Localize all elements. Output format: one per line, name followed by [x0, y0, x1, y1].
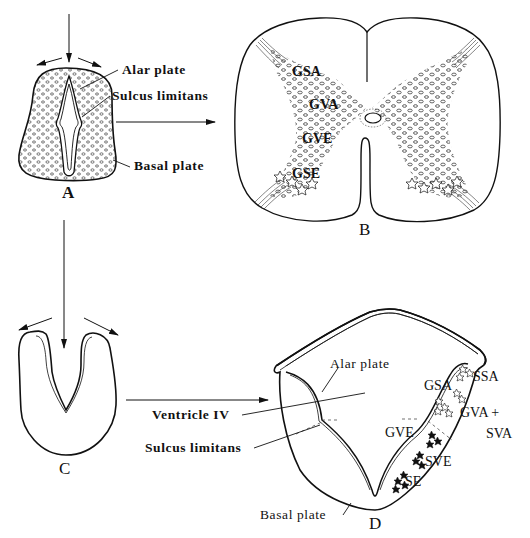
- label-d-ssa: SSA: [473, 369, 499, 385]
- label-d-se: SE: [405, 474, 421, 490]
- label-a-sulcus-limitans: Sulcus limitans: [112, 88, 208, 104]
- panel-d-drawing: [242, 309, 486, 515]
- label-d-gva-plus: GVA +: [460, 405, 499, 421]
- label-d-gve: GVE: [385, 425, 414, 441]
- panel-c-drawing: [19, 220, 268, 455]
- label-a-basal-plate: Basal plate: [134, 158, 204, 174]
- panel-letter-d: D: [369, 514, 381, 534]
- label-b-gve: GVE: [302, 131, 332, 147]
- label-b-gva: GVA: [309, 97, 338, 113]
- panel-letter-c: C: [59, 459, 70, 479]
- label-d-alar-plate: Alar plate: [330, 356, 390, 372]
- panel-b-drawing: [235, 18, 500, 222]
- label-d-gsa: GSA: [424, 378, 452, 394]
- panel-letter-a: A: [62, 183, 74, 203]
- label-d-sva: SVA: [486, 426, 512, 442]
- label-b-gse: GSE: [292, 166, 320, 182]
- panel-letter-b: B: [359, 220, 370, 240]
- label-d-sve: SVE: [425, 454, 451, 470]
- label-d-sulcus-limitans: Sulcus limitans: [145, 440, 241, 456]
- label-b-gsa: GSA: [292, 64, 321, 80]
- label-d-basal-plate: Basal plate: [260, 507, 326, 523]
- label-a-alar-plate: Alar plate: [122, 62, 186, 78]
- label-d-ventricle-iv: Ventricle IV: [152, 407, 230, 423]
